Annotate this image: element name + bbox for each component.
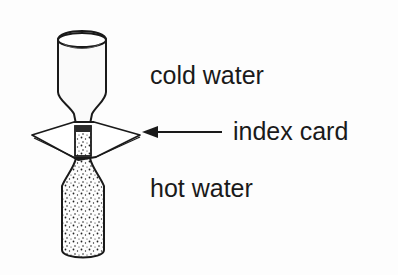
index-card-arrow <box>142 126 222 138</box>
arrow-head-icon <box>142 126 158 138</box>
index-card-label: index card <box>233 119 348 144</box>
neck-joint <box>75 126 91 156</box>
diagram-canvas: cold water index card hot water <box>0 0 398 275</box>
hot-water-label: hot water <box>150 176 253 201</box>
cold-water-label: cold water <box>150 63 264 88</box>
bottom-bottle <box>62 158 104 258</box>
top-bottle <box>58 31 106 124</box>
